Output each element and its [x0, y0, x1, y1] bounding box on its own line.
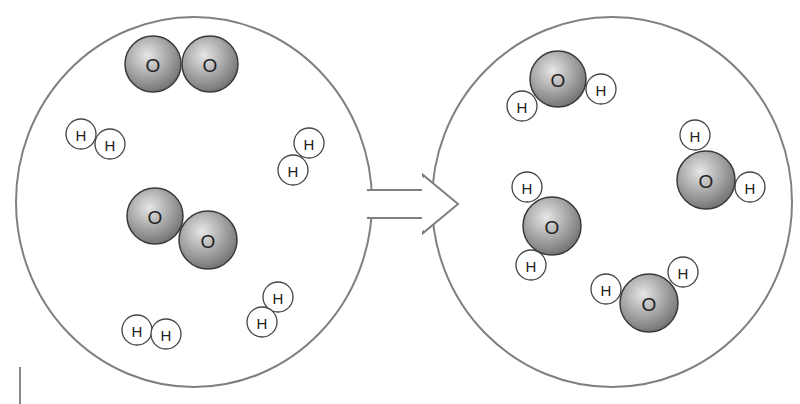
atom-label: O	[201, 231, 216, 252]
atom-label: H	[161, 327, 172, 344]
atom-label: H	[76, 127, 87, 144]
atom-label: H	[522, 180, 533, 197]
oxygen-atom: O	[125, 36, 181, 92]
atom-label: H	[132, 323, 143, 340]
atom-label: O	[551, 70, 566, 91]
atom-label: H	[288, 163, 299, 180]
oxygen-atom: O	[620, 274, 678, 332]
atom-label: H	[678, 265, 689, 282]
hydrogen-atom: H	[512, 172, 542, 202]
hydrogen-atom: H	[122, 315, 152, 345]
hydrogen-atom: H	[278, 155, 308, 185]
oxygen-atom: O	[127, 188, 183, 244]
oxygen-atom: O	[677, 151, 735, 209]
hydrogen-atom: H	[516, 250, 546, 280]
product-circle	[432, 17, 792, 387]
atom-label: O	[146, 55, 161, 76]
hydrogen-atom: H	[735, 172, 765, 202]
oxygen-atom: O	[182, 36, 238, 92]
reaction-diagram: OOHHHHOOHHHH HHOHHOHHOHHO	[0, 0, 800, 404]
atom-label: H	[304, 136, 315, 153]
atom-label: H	[517, 99, 528, 116]
atom-label: O	[699, 171, 714, 192]
hydrogen-atom: H	[151, 319, 181, 349]
oxygen-atom: O	[179, 211, 237, 269]
atom-label: H	[526, 258, 537, 275]
hydrogen-atom: H	[247, 307, 277, 337]
atom-label: H	[273, 290, 284, 307]
hydrogen-atom: H	[507, 91, 537, 121]
arrow-shaft-fill	[366, 191, 424, 217]
atom-label: H	[257, 315, 268, 332]
atom-label: O	[148, 207, 163, 228]
atom-label: O	[203, 55, 218, 76]
hydrogen-atom: H	[668, 257, 698, 287]
atom-label: H	[745, 180, 756, 197]
atom-label: H	[596, 82, 607, 99]
hydrogen-atom: H	[66, 119, 96, 149]
hydrogen-atom: H	[586, 74, 616, 104]
hydrogen-atom: H	[680, 120, 710, 150]
hydrogen-atom: H	[95, 129, 125, 159]
hydrogen-atom: H	[591, 274, 621, 304]
atom-label: O	[545, 217, 560, 238]
atom-label: H	[601, 282, 612, 299]
atom-label: H	[690, 128, 701, 145]
oxygen-atom: O	[523, 197, 581, 255]
hydrogen-atom: H	[294, 128, 324, 158]
atom-label: O	[642, 294, 657, 315]
product-container	[432, 17, 792, 387]
oxygen-atom: O	[530, 51, 586, 107]
atom-label: H	[105, 137, 116, 154]
